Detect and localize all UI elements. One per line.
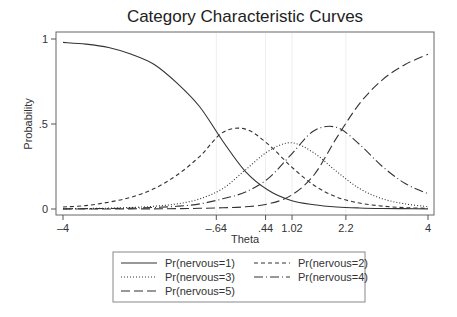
legend: Pr(nervous=1)Pr(nervous=2)Pr(nervous=3)P…	[113, 252, 368, 302]
y-tick-label: 0	[42, 203, 48, 215]
chart-title: Category Characteristic Curves	[127, 7, 363, 26]
x-tick-label: .44	[258, 222, 273, 234]
x-tick-label: 4	[425, 222, 431, 234]
legend-label: Pr(nervous=3)	[165, 271, 235, 283]
legend-label: Pr(nervous=2)	[298, 257, 368, 269]
y-tick-label: .5	[39, 118, 48, 130]
legend-label: Pr(nervous=4)	[298, 271, 368, 283]
x-axis: –4–.64.441.022.24	[57, 215, 431, 234]
x-tick-label: –.64	[206, 222, 227, 234]
y-axis: 0.51	[39, 33, 56, 215]
y-axis-label: Probability	[22, 98, 34, 150]
x-tick-label: 2.2	[338, 222, 353, 234]
plot-area	[56, 32, 434, 215]
legend-label: Pr(nervous=1)	[165, 257, 235, 269]
y-tick-label: 1	[42, 33, 48, 45]
x-tick-label: 1.02	[281, 222, 302, 234]
legend-label: Pr(nervous=5)	[165, 285, 235, 297]
x-axis-label: Theta	[231, 233, 260, 245]
x-tick-label: –4	[57, 222, 69, 234]
plot-frame	[56, 32, 434, 215]
chart: Category Characteristic Curves 0.51 –4–.…	[0, 0, 457, 317]
